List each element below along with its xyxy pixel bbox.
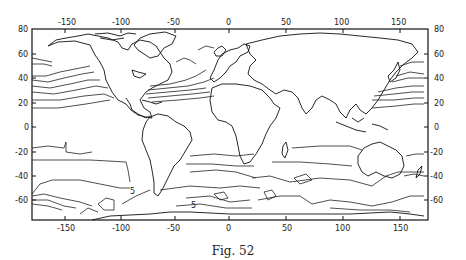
coastlines bbox=[48, 32, 424, 220]
figure-caption: Fig. 52 bbox=[0, 244, 466, 258]
coast-japan bbox=[388, 62, 400, 82]
contour-lines bbox=[32, 46, 424, 214]
coast-north-america bbox=[48, 34, 172, 118]
left-tick-label: -40 bbox=[15, 172, 28, 181]
coast-europe bbox=[210, 44, 250, 82]
coast-south-america bbox=[142, 114, 192, 196]
left-tick-label: 0 bbox=[24, 123, 29, 132]
left-tick-label: 40 bbox=[18, 74, 28, 83]
left-tick-label: -20 bbox=[15, 148, 28, 157]
coast-antarctica bbox=[92, 212, 424, 220]
top-tick-label: 0 bbox=[226, 18, 231, 27]
right-tick-label: 0 bbox=[434, 123, 439, 132]
contour-label: 5 bbox=[191, 201, 196, 210]
top-tick-label: -150 bbox=[58, 18, 76, 27]
coast-madagascar bbox=[282, 142, 288, 158]
right-tick-label: 60 bbox=[434, 50, 444, 59]
bottom-axis: -150 -100 -50 0 50 100 150 bbox=[57, 216, 408, 233]
right-tick-label: -60 bbox=[430, 196, 443, 205]
left-tick-label: 20 bbox=[18, 99, 28, 108]
right-tick-label: 40 bbox=[434, 74, 444, 83]
top-tick-label: -50 bbox=[167, 18, 180, 27]
bottom-tick-label: 50 bbox=[282, 224, 292, 233]
left-tick-label: -60 bbox=[15, 196, 28, 205]
bottom-tick-label: -50 bbox=[167, 224, 180, 233]
top-tick-label: 150 bbox=[391, 18, 406, 27]
top-tick-label: -100 bbox=[112, 18, 130, 27]
top-tick-label: 100 bbox=[334, 18, 349, 27]
right-tick-label: 80 bbox=[434, 25, 444, 34]
left-axis: 80 60 40 20 0 -20 -40 -60 bbox=[15, 25, 36, 205]
left-tick-label: 60 bbox=[18, 50, 28, 59]
top-tick-label: 50 bbox=[281, 18, 291, 27]
left-tick-label: 80 bbox=[18, 25, 28, 34]
right-axis: 80 60 40 20 0 -20 -40 -60 bbox=[424, 25, 444, 205]
contour-label: 5 bbox=[130, 187, 135, 196]
right-tick-label: -20 bbox=[430, 148, 443, 157]
coast-indonesia bbox=[336, 118, 388, 132]
right-tick-label: -40 bbox=[430, 172, 443, 181]
bottom-tick-label: -100 bbox=[112, 224, 130, 233]
coast-africa bbox=[210, 84, 280, 164]
coast-asia bbox=[246, 33, 418, 118]
bottom-tick-label: -150 bbox=[57, 224, 75, 233]
top-axis: -150 -100 -50 0 50 100 150 bbox=[58, 18, 406, 33]
bottom-tick-label: 0 bbox=[226, 224, 231, 233]
bottom-tick-label: 150 bbox=[393, 224, 408, 233]
contour-map-figure: -150 -100 -50 0 50 100 150 -150 -100 -50… bbox=[0, 0, 466, 260]
right-tick-label: 20 bbox=[434, 99, 444, 108]
bottom-tick-label: 100 bbox=[335, 224, 350, 233]
